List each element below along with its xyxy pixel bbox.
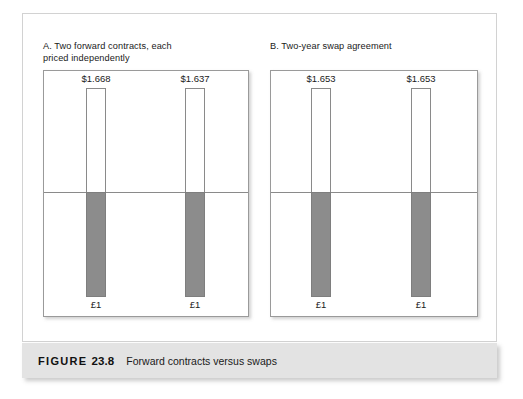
caption-description: Forward contracts versus swaps <box>126 355 277 367</box>
panel-b-title: B. Two-year swap agreement <box>270 41 478 65</box>
panel-b: B. Two-year swap agreement $1.653 £1 $1.… <box>270 41 478 317</box>
panel-b-bar-group-1: $1.653 £1 <box>311 71 331 316</box>
panel-a-bar-2-base-label: £1 <box>190 299 201 310</box>
figure-container: A. Two forward contracts, each priced in… <box>0 0 523 399</box>
panel-b-bar-2-up <box>411 88 431 193</box>
panel-a-plot-area: $1.668 £1 $1.637 £1 <box>43 70 249 317</box>
panel-a-bar-2-up <box>185 88 205 193</box>
figure-caption-band: FIGURE 23.8 Forward contracts versus swa… <box>22 343 497 378</box>
panel-b-bar-2-base-label: £1 <box>416 299 427 310</box>
panel-b-bar-1-down <box>311 192 331 297</box>
figure-outer-frame: A. Two forward contracts, each priced in… <box>22 13 497 342</box>
panel-a-bar-group-2: $1.637 £1 <box>185 71 205 316</box>
panel-a-bar-2-value-label: $1.637 <box>180 73 209 84</box>
panel-a-bar-group-1: $1.668 £1 <box>86 71 106 316</box>
panel-a-title: A. Two forward contracts, each priced in… <box>43 41 249 65</box>
panel-a-bar-2-down <box>185 192 205 297</box>
panel-a-bar-1-up <box>86 88 106 193</box>
panel-b-bar-1-up <box>311 88 331 193</box>
caption-figure-word: FIGURE <box>38 355 87 367</box>
panel-b-bar-2-down <box>411 192 431 297</box>
panel-b-bar-group-2: $1.653 £1 <box>411 71 431 316</box>
panel-a-bar-1-value-label: $1.668 <box>81 73 110 84</box>
caption-figure-number: 23.8 <box>91 355 114 367</box>
panel-a: A. Two forward contracts, each priced in… <box>43 41 249 317</box>
panel-a-bar-1-down <box>86 192 106 297</box>
panel-b-bar-1-value-label: $1.653 <box>306 73 335 84</box>
panel-b-bar-2-value-label: $1.653 <box>406 73 435 84</box>
panel-a-bar-1-base-label: £1 <box>91 299 102 310</box>
panel-b-zero-line <box>271 192 477 193</box>
panel-b-bar-1-base-label: £1 <box>316 299 327 310</box>
panel-b-plot-area: $1.653 £1 $1.653 £1 <box>270 70 478 317</box>
panel-a-zero-line <box>44 192 248 193</box>
